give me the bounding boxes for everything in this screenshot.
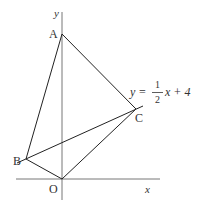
- point-c-label: C: [135, 111, 143, 125]
- segment-ab: [26, 34, 62, 159]
- point-b-label: B: [13, 154, 21, 168]
- diagram-canvas: y x O A B C y = 1 2 x + 4: [0, 0, 204, 207]
- equation-equals: =: [139, 85, 146, 99]
- equation-denominator: 2: [155, 94, 160, 105]
- segment-oc: [62, 109, 136, 179]
- origin-label: O: [49, 182, 58, 196]
- equation-numerator: 1: [155, 79, 160, 90]
- line-bc: [17, 106, 143, 163]
- equation-lhs: y: [129, 85, 136, 99]
- equation-rest: x + 4: [164, 85, 190, 99]
- line-equation: y = 1 2 x + 4: [129, 79, 190, 105]
- y-axis-label: y: [53, 7, 59, 19]
- point-a-label: A: [49, 27, 58, 41]
- segment-ac: [62, 34, 136, 109]
- segment-bo: [26, 159, 62, 179]
- x-axis-label: x: [144, 183, 150, 195]
